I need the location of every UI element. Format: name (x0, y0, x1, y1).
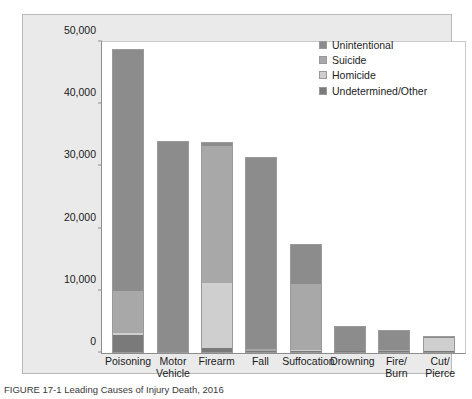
x-axis-label: MotorVehicle (151, 356, 195, 379)
y-tick-label: 40,000 (64, 86, 96, 98)
bar-segment[interactable] (246, 158, 276, 349)
stacked-bar[interactable] (157, 141, 189, 353)
figure-container: Number of Deaths 010,00020,00030,00040,0… (0, 0, 472, 399)
legend-item[interactable]: Unintentional (319, 39, 427, 51)
x-axis-label: Drowning (330, 356, 374, 379)
stacked-bar[interactable] (334, 326, 366, 353)
legend-swatch-icon (319, 56, 327, 64)
legend-label: Suicide (332, 54, 366, 66)
stacked-bar[interactable] (423, 336, 455, 353)
legend-label: Unintentional (332, 39, 393, 51)
y-tick-label: 0 (90, 335, 96, 347)
bar-column[interactable] (158, 42, 188, 353)
x-axis-label: Firearm (195, 356, 239, 379)
chart-legend: UnintentionalSuicideHomicideUndetermined… (319, 39, 427, 97)
bar-segment[interactable] (379, 351, 409, 352)
bar-segment[interactable] (424, 338, 454, 350)
y-tick-label: 10,000 (64, 273, 96, 285)
bar-segment[interactable] (113, 291, 143, 333)
bar-column[interactable] (291, 42, 321, 353)
x-axis-label: Poisoning (105, 356, 151, 379)
bar-column[interactable] (113, 42, 143, 353)
stacked-bar[interactable] (290, 244, 322, 353)
stacked-bar[interactable] (245, 157, 277, 353)
legend-swatch-icon (319, 41, 327, 49)
bar-column[interactable] (202, 42, 232, 353)
stacked-bar[interactable] (201, 142, 233, 353)
legend-item[interactable]: Homicide (319, 69, 427, 81)
x-axis-label: Fire/Burn (375, 356, 419, 379)
stacked-bar[interactable] (378, 330, 410, 353)
legend-label: Homicide (332, 69, 376, 81)
legend-item[interactable]: Undetermined/Other (319, 85, 427, 97)
x-axis-labels: PoisoningMotorVehicleFirearmFallSuffocat… (101, 356, 466, 379)
bar-segment[interactable] (291, 351, 321, 352)
figure-caption: FIGURE 17-1 Leading Causes of Injury Dea… (4, 384, 464, 395)
bar-segment[interactable] (113, 50, 143, 291)
bar-segment[interactable] (335, 351, 365, 352)
bar-segment[interactable] (113, 335, 143, 352)
bar-column[interactable] (246, 42, 276, 353)
x-axis-label: Cut/Pierce (418, 356, 462, 379)
bar-column[interactable] (424, 42, 454, 353)
bar-segment[interactable] (291, 245, 321, 284)
bar-segment[interactable] (202, 283, 232, 348)
legend-swatch-icon (319, 71, 327, 79)
legend-item[interactable]: Suicide (319, 54, 427, 66)
y-tick-label: 20,000 (64, 211, 96, 223)
bar-segment[interactable] (335, 327, 365, 351)
bar-segment[interactable] (424, 351, 454, 352)
y-tick-label: 50,000 (64, 24, 96, 36)
x-axis-label: Suffocation (282, 356, 330, 379)
bar-segment[interactable] (291, 284, 321, 350)
bar-segment[interactable] (202, 348, 232, 352)
legend-label: Undetermined/Other (332, 85, 427, 97)
bar-segment[interactable] (246, 351, 276, 352)
bar-segment[interactable] (379, 331, 409, 350)
stacked-bar[interactable] (112, 49, 144, 353)
chart-frame: Number of Deaths 010,00020,00030,00040,0… (22, 14, 452, 374)
bar-segment[interactable] (158, 142, 188, 352)
x-axis-label: Fall (239, 356, 283, 379)
y-tick-label: 30,000 (64, 148, 96, 160)
legend-swatch-icon (319, 87, 327, 95)
bar-segment[interactable] (202, 146, 232, 283)
